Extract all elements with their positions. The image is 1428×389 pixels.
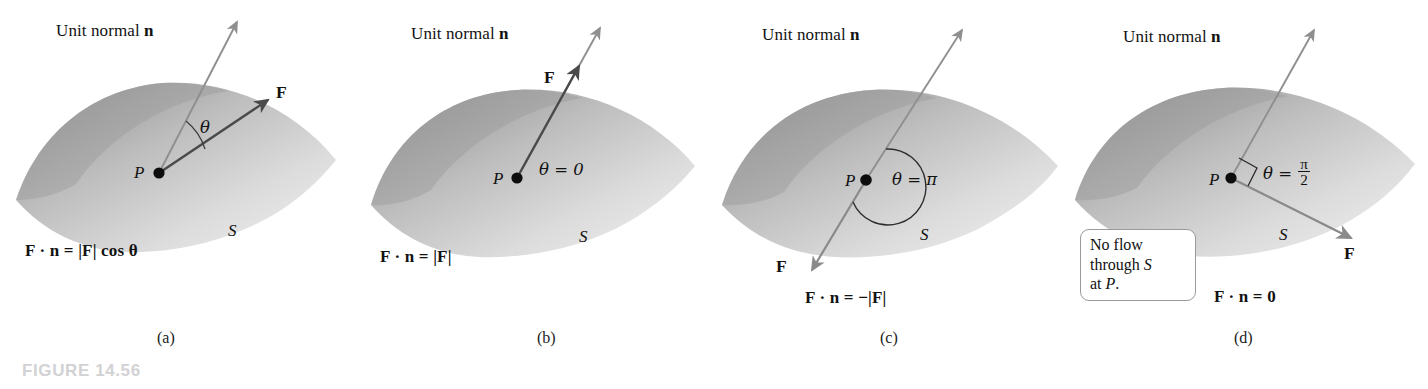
panel-a: Unit normal n F θ P S F · n = |F| cos θ … [0,0,357,389]
point-label: P [1209,171,1219,188]
point-label: P [845,172,855,189]
panel-b-graphic [357,0,714,389]
unit-normal-label: Unit normal n [1123,28,1221,45]
note-line-3: at P. [1090,274,1186,294]
surface-label: S [228,222,237,239]
pi-over-two-fraction: π2 [1298,156,1310,188]
figure-14-56: Unit normal n F θ P S F · n = |F| cos θ … [0,0,1428,389]
unit-normal-label: Unit normal n [762,26,860,43]
force-label: F [1344,245,1355,263]
surface-label: S [920,226,929,243]
unit-normal-label: Unit normal n [411,25,509,42]
theta-label: θ [200,120,210,137]
panel-caption-b: (b) [537,329,556,347]
no-flow-note-box: No flow through S at P. [1080,229,1196,301]
theta-label: θ = π [892,172,937,189]
panel-d: Unit normal n θ = π2 P S F No flow throu… [1071,0,1428,389]
surface-label: S [579,228,588,245]
equation-label: F · n = |F| cos θ [25,242,138,259]
panel-caption-d: (d) [1234,329,1253,347]
theta-label: θ = π2 [1263,156,1311,188]
panel-caption-c: (c) [880,329,898,347]
equation-label: F · n = −|F| [805,289,887,306]
panel-caption-a: (a) [157,329,175,347]
panel-b: Unit normal n F θ = 0 P S F · n = |F| (b… [357,0,714,389]
point-marker-p [153,167,164,178]
note-line-2: through S [1090,255,1186,275]
force-label: F [544,69,555,87]
theta-label: θ = 0 [539,162,584,179]
point-marker-p [860,174,872,186]
force-label: F [776,258,787,276]
equation-label: F · n = |F| [380,248,452,265]
unit-normal-label: Unit normal n [56,22,154,39]
panel-c: Unit normal n θ = π P S F F · n = −|F| (… [714,0,1071,389]
panel-a-graphic [0,0,357,389]
figure-number-label: FIGURE 14.56 [22,361,141,381]
point-label: P [493,170,503,187]
point-label: P [134,164,144,181]
equation-label: F · n = 0 [1214,288,1276,305]
point-marker-p [511,172,522,183]
surface-label: S [1279,226,1288,243]
force-label: F [276,84,287,102]
note-line-1: No flow [1090,235,1186,255]
point-marker-p [1225,172,1236,183]
